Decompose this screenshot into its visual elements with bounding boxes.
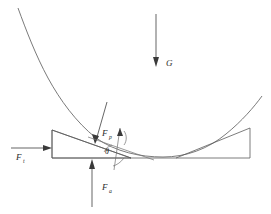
right-wedge-top-edge (176, 128, 250, 158)
contact-normal-tangent-tick-upper (124, 131, 126, 145)
support-label-subscript: a (109, 188, 112, 194)
support-label: F (101, 182, 108, 192)
free-body-diagram: G F t F p θ (0, 0, 271, 214)
support-arrow-head (89, 159, 95, 169)
gravity-force-arrow: G (153, 14, 173, 68)
gravity-label: G (166, 58, 173, 68)
normal-label: F (101, 128, 108, 138)
contact-normal-indicator (113, 128, 126, 170)
parabolic-track-curve (18, 8, 262, 157)
normal-force-arrow: F p (92, 102, 112, 144)
traction-label: F (15, 152, 22, 162)
traction-force-arrow: F t (11, 145, 52, 164)
gravity-arrow-head (153, 57, 159, 67)
traction-label-subscript: t (23, 158, 25, 164)
traction-arrow-head (43, 145, 52, 151)
diagram-canvas: G F t F p θ (0, 0, 271, 214)
support-force-arrow: F a (89, 159, 112, 207)
incline-tangent-line (88, 137, 154, 160)
angle-theta-label: θ (105, 147, 109, 156)
contact-normal-head (117, 128, 123, 136)
normal-label-subscript: p (108, 134, 112, 140)
